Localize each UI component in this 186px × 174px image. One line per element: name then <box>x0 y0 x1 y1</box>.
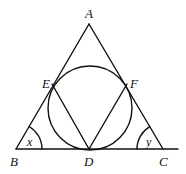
label-a: A <box>84 6 93 21</box>
label-c: C <box>159 154 168 169</box>
angle-label-x: x <box>26 135 33 149</box>
label-d: D <box>83 154 94 169</box>
label-f: F <box>129 76 139 91</box>
segment-ed <box>52 84 89 149</box>
label-b: B <box>10 154 18 169</box>
label-e: E <box>41 76 50 91</box>
angle-label-y: y <box>145 135 152 149</box>
segment-fd <box>89 84 127 149</box>
inscribed-circle <box>48 66 132 150</box>
geometry-diagram: A B C D E F x y <box>0 0 186 174</box>
